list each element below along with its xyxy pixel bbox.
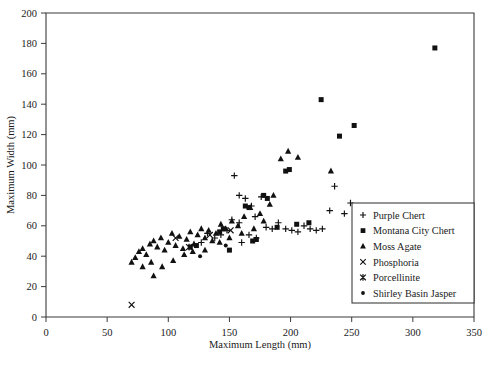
y-tick-label: 200 bbox=[21, 8, 37, 19]
data-point-square bbox=[227, 248, 232, 253]
chart-canvas: 050100150200250300350 020406080100120140… bbox=[0, 0, 491, 377]
data-point-triangle bbox=[151, 272, 157, 278]
data-point-triangle bbox=[285, 148, 291, 154]
data-point-triangle bbox=[151, 238, 157, 244]
data-point-square bbox=[319, 97, 324, 102]
data-point-square bbox=[432, 45, 437, 50]
y-axis-title: Maximum Width (mm) bbox=[5, 116, 17, 214]
data-point-triangle bbox=[257, 210, 263, 216]
data-point-plus bbox=[269, 226, 275, 232]
data-point-triangle bbox=[162, 247, 168, 253]
legend: Purple ChertMontana City ChertMoss Agate… bbox=[352, 203, 474, 303]
legend-label-5: Shirley Basin Jasper bbox=[373, 288, 457, 299]
legend-marker-square bbox=[361, 228, 366, 233]
data-point-triangle bbox=[202, 247, 208, 253]
data-point-plus bbox=[319, 226, 325, 232]
data-point-square bbox=[265, 196, 270, 201]
x-tick-label: 100 bbox=[160, 327, 176, 338]
y-axis-ticks: 020406080100120140160180200 bbox=[21, 8, 46, 323]
data-point-triangle bbox=[206, 227, 212, 233]
x-axis-ticks: 050100150200250300350 bbox=[43, 317, 482, 338]
data-point-plus bbox=[331, 183, 337, 189]
y-tick-label: 40 bbox=[27, 251, 38, 262]
data-point-x bbox=[129, 302, 135, 308]
data-point-square bbox=[294, 222, 299, 227]
data-point-plus bbox=[289, 227, 295, 233]
x-tick-label: 150 bbox=[222, 327, 238, 338]
data-point-triangle bbox=[198, 225, 204, 231]
data-point-triangle bbox=[261, 218, 267, 224]
data-point-dot bbox=[224, 244, 228, 248]
data-point-plus bbox=[327, 207, 333, 213]
data-point-triangle bbox=[148, 259, 154, 265]
y-tick-label: 60 bbox=[27, 220, 38, 231]
data-point-triangle bbox=[239, 230, 245, 236]
data-point-triangle bbox=[140, 245, 146, 251]
data-point-triangle bbox=[140, 263, 146, 269]
data-point-square bbox=[275, 225, 280, 230]
x-tick-label: 0 bbox=[43, 327, 48, 338]
data-point-triangle bbox=[229, 218, 235, 224]
legend-item-1[interactable]: Montana City Chert bbox=[361, 225, 455, 236]
data-point-triangle bbox=[154, 244, 160, 250]
data-point-triangle bbox=[195, 231, 201, 237]
data-point-plus bbox=[231, 172, 237, 178]
x-tick-label: 300 bbox=[405, 327, 421, 338]
series-purple-chert bbox=[198, 172, 354, 245]
x-axis-title: Maximum Length (mm) bbox=[209, 339, 312, 351]
data-point-plus bbox=[307, 226, 313, 232]
legend-label-1: Montana City Chert bbox=[373, 225, 455, 236]
data-point-triangle bbox=[184, 236, 190, 242]
data-point-triangle bbox=[169, 230, 175, 236]
legend-label-4: Porcellinite bbox=[373, 272, 420, 283]
scatter-chart-figure: 050100150200250300350 020406080100120140… bbox=[0, 0, 491, 377]
x-tick-label: 50 bbox=[102, 327, 113, 338]
y-tick-label: 0 bbox=[32, 312, 37, 323]
y-tick-label: 80 bbox=[27, 190, 38, 201]
legend-label-3: Phosphoria bbox=[373, 257, 419, 268]
data-point-triangle bbox=[218, 221, 224, 227]
x-tick-label: 200 bbox=[283, 327, 299, 338]
data-point-triangle bbox=[328, 168, 334, 174]
data-point-triangle bbox=[158, 234, 164, 240]
data-point-triangle bbox=[278, 155, 284, 161]
data-point-square bbox=[306, 220, 311, 225]
data-point-triangle bbox=[181, 251, 187, 257]
legend-item-5[interactable]: Shirley Basin Jasper bbox=[361, 288, 457, 299]
data-point-square bbox=[287, 167, 292, 172]
y-tick-label: 180 bbox=[21, 38, 37, 49]
legend-label-2: Moss Agate bbox=[373, 241, 422, 252]
data-point-plus bbox=[313, 227, 319, 233]
data-point-triangle bbox=[187, 228, 193, 234]
data-point-triangle bbox=[170, 257, 176, 263]
legend-marker-dot bbox=[361, 291, 365, 295]
data-point-plus bbox=[252, 213, 258, 219]
y-tick-label: 160 bbox=[21, 68, 37, 79]
series-shirley-basin-jasper bbox=[198, 244, 228, 259]
data-point-triangle bbox=[295, 154, 301, 160]
data-point-triangle bbox=[251, 225, 257, 231]
data-point-plus bbox=[238, 239, 244, 245]
data-point-triangle bbox=[165, 239, 171, 245]
data-point-triangle bbox=[241, 213, 247, 219]
y-tick-label: 140 bbox=[21, 99, 37, 110]
data-point-plus bbox=[282, 226, 288, 232]
x-tick-label: 350 bbox=[466, 327, 482, 338]
data-point-triangle bbox=[159, 263, 165, 269]
data-point-triangle bbox=[217, 239, 223, 245]
data-point-dot bbox=[198, 254, 202, 258]
y-tick-label: 120 bbox=[21, 129, 37, 140]
data-point-square bbox=[337, 134, 342, 139]
data-point-square bbox=[352, 123, 357, 128]
data-point-triangle bbox=[132, 254, 138, 260]
data-point-plus bbox=[246, 232, 252, 238]
y-tick-label: 20 bbox=[27, 281, 38, 292]
data-point-plus bbox=[301, 223, 307, 229]
data-point-square bbox=[250, 239, 255, 244]
data-point-plus bbox=[263, 224, 269, 230]
data-point-triangle bbox=[270, 192, 276, 198]
legend-label-0: Purple Chert bbox=[373, 210, 425, 221]
data-point-triangle bbox=[267, 201, 273, 207]
data-point-triangle bbox=[173, 242, 179, 248]
data-point-plus bbox=[295, 229, 301, 235]
